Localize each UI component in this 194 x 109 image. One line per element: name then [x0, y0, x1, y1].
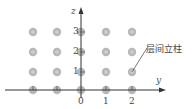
- horizontal-tick-0: 0: [78, 96, 84, 106]
- interstory-column-annotation: 层间立柱: [146, 42, 182, 55]
- column-nodes: [29, 28, 136, 94]
- vertical-tick-1: 1: [73, 66, 79, 76]
- horizontal-axis-label: y: [156, 75, 161, 85]
- vertical-tick-2: 2: [73, 46, 79, 56]
- horizontal-tick-2: 2: [129, 96, 135, 106]
- vertical-axis-arrow-icon: [79, 7, 84, 14]
- horizontal-tick-1: 1: [103, 96, 109, 106]
- vertical-tick-3: 3: [73, 26, 79, 36]
- horizontal-axis-arrow-icon: [159, 88, 166, 93]
- vertical-axis-label: z: [71, 6, 76, 16]
- axis-ticks: [33, 32, 132, 90]
